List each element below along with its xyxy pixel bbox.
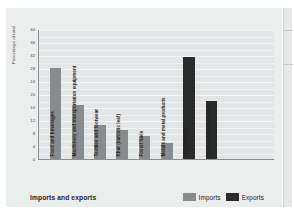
plot-area-wrapper: Percentage of total 0481216202428323640 … [24,30,274,182]
category-label: Machinery and transportation equipment [73,66,78,157]
y-axis-title: Percentage of total [11,0,16,64]
x-axis-title: Imports and exports [30,194,96,201]
y-tick-label: 0 [33,158,35,162]
y-tick-label: 32 [30,54,35,58]
legend-item-exports[interactable]: Exports [226,193,264,201]
figure-card: Percentage of total 0481216202428323640 … [6,8,282,207]
legend-label: Imports [199,194,221,201]
legend-item-imports[interactable]: Imports [183,193,221,201]
plot-canvas: Food and beveragesMachinery and transpor… [38,30,274,160]
category-label: Live animals [185,129,190,157]
category-label: Textiles and footwear [96,109,101,157]
y-tick-label: 40 [30,28,35,32]
y-tick-label: 20 [30,93,35,97]
category-label: Fossil fuels [140,131,145,157]
chart-page: Percentage of total 0481216202428323640 … [0,0,294,215]
y-tick-label: 12 [30,119,35,123]
legend-label: Exports [242,194,264,201]
chart-legend: ImportsExports [183,193,264,201]
y-tick-label: 24 [30,80,35,84]
y-tick-label: 4 [33,145,35,149]
y-axis-tick-labels: 0481216202428323640 [24,30,36,160]
y-tick-label: 36 [30,41,35,45]
y-tick-label: 28 [30,67,35,71]
bar-series-container: Food and beveragesMachinery and transpor… [39,30,274,159]
category-label: Food and food products [207,103,212,157]
y-tick-label: 8 [33,132,35,136]
side-strip [283,8,292,207]
y-tick-label: 16 [30,106,35,110]
category-label: Khat (narcotic leaf) [118,114,123,157]
legend-swatch-icon [183,193,196,201]
legend-swatch-icon [226,193,239,201]
category-label: Food and beverages [51,111,56,157]
category-label: Metals and metal products [162,98,167,157]
